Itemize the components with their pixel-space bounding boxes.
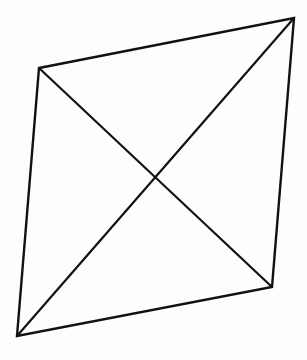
diagonal-tr-bl xyxy=(17,18,294,336)
diagram-canvas xyxy=(0,0,307,360)
quadrilateral-diagram xyxy=(0,0,307,360)
